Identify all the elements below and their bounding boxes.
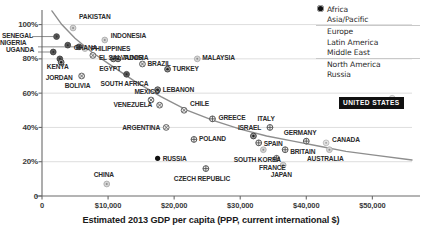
point-label: MALAYSIA — [202, 54, 235, 61]
legend-label: Asia/Pacific — [327, 15, 368, 24]
point-label: ITALY — [257, 115, 274, 122]
y-tick-label: 40% — [0, 123, 38, 132]
point-label: GREECE — [218, 114, 245, 121]
x-tick-label: $50,000 — [342, 201, 402, 210]
point-label: CANADA — [332, 136, 360, 143]
legend-item-middle-east[interactable]: Middle East — [316, 47, 420, 58]
point-label: PAKISTAN — [79, 13, 111, 20]
x-tick-label: $10,000 — [78, 201, 138, 210]
point-label: JAPAN — [271, 171, 292, 178]
point-label: TURKEY — [173, 65, 199, 72]
point-label: JORDAN — [46, 74, 73, 81]
point-label: VENEZUELA — [114, 101, 153, 108]
legend-item-north-america[interactable]: North America — [316, 58, 420, 70]
united-states-callout: UNITED STATES — [339, 97, 404, 109]
x-tick-label: $30,000 — [210, 201, 270, 210]
point-label: CHILE — [190, 100, 209, 107]
point-label: RUSSIA — [163, 155, 187, 162]
x-tick-label: 0 — [12, 201, 72, 210]
point-label: POLAND — [199, 135, 226, 142]
x-axis-title: Estimated 2013 GDP per capita (PPP, curr… — [0, 215, 422, 225]
point-label: INDONESIA — [111, 32, 146, 39]
point-label: TUNISIA — [123, 54, 148, 61]
x-tick-label: $20,000 — [144, 201, 204, 210]
chart-root: 020%40%60%80%100% 0$10,000$20,000$30,000… — [0, 0, 422, 234]
point-label: PHILIPPINES — [91, 45, 130, 52]
point-label: BRITAIN — [290, 148, 315, 155]
point-label: EGYPT — [99, 65, 121, 72]
point-label: CHINA — [94, 171, 114, 178]
y-tick-label: 80% — [0, 54, 38, 63]
y-tick-label: 60% — [0, 89, 38, 98]
point-label: SPAIN — [264, 140, 283, 147]
point-label: SOUTH KOREA — [234, 156, 281, 163]
point-label: LEBANON — [163, 86, 195, 93]
y-tick-label: 0 — [0, 192, 38, 201]
point-label: ISRAEL — [238, 124, 261, 131]
legend-item-russia[interactable]: Russia — [316, 70, 420, 81]
point-label: MEXICO — [135, 88, 160, 95]
legend-label: Latin America — [327, 38, 378, 47]
chart-legend: AfricaAsia/PacificEuropeLatin AmericaMid… — [316, 4, 420, 80]
legend-label: North America — [327, 60, 381, 69]
x-tick-label: $40,000 — [276, 201, 336, 210]
legend-item-latin-america[interactable]: Latin America — [316, 37, 420, 48]
y-tick-label: 20% — [0, 157, 38, 166]
point-label: BOLIVIA — [65, 82, 91, 89]
point-label: SENEGAL — [2, 32, 33, 39]
legend-label: Europe — [327, 27, 353, 36]
point-label: NIGERIA — [0, 39, 26, 46]
point-label: SOUTH AFRICA — [101, 80, 149, 87]
point-label: GERMANY — [284, 129, 317, 136]
point-label: ARGENTINA — [122, 124, 160, 131]
legend-item-africa[interactable]: Africa — [316, 4, 420, 15]
point-label: AUSTRALIA — [307, 155, 344, 162]
point-label: BRAZIL — [147, 60, 170, 67]
point-label: UGANDA — [6, 46, 34, 53]
legend-item-europe[interactable]: Europe — [316, 25, 420, 37]
y-tick-label: 100% — [0, 20, 38, 29]
legend-label: Russia — [327, 70, 351, 79]
legend-label: Middle East — [327, 48, 370, 57]
legend-item-asia-pacific[interactable]: Asia/Pacific — [316, 15, 420, 26]
point-label: CZECH REPUBLIC — [174, 175, 230, 182]
point-label: KENYA — [47, 63, 69, 70]
legend-label: Africa — [327, 5, 348, 14]
